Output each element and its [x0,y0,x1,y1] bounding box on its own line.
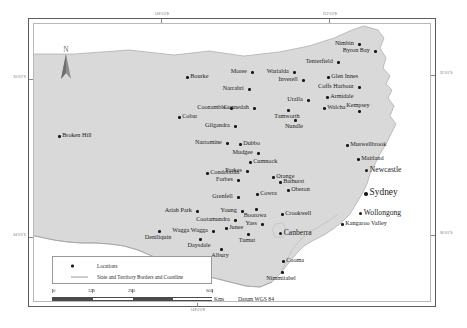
city-point-icon [358,110,361,113]
city-label: Cowra [260,190,277,196]
scale-seg-1 [53,298,93,300]
city-label: Narromine [195,139,222,145]
map-data-frame[interactable]: NimbinByron BayTenterfieldWarialdaGlen I… [33,23,431,302]
city-label: Muswellbrook [350,141,386,147]
map-scale-bar: 0 125 250 500 Kms Datum WGS 84 [52,289,232,302]
city-point-icon [282,260,285,263]
city-label: Gunnedah [223,104,248,110]
city-label: Uralla [287,96,302,102]
city-point-icon [253,107,256,110]
city-label: Daysdale [187,242,210,248]
city-point-icon [212,230,215,233]
city-label: Parkes [225,167,242,173]
city-label: Wagga Wagga [172,227,207,233]
city-point-icon [358,86,361,89]
city-label: Boorowa [244,212,267,218]
city-label: Wollongong [364,209,401,217]
city-label: Cootamundra [196,216,230,222]
city-point-icon [237,179,240,182]
scale-seg-4 [173,298,213,300]
legend-label-borders: State and Territory Borders and Coastlin… [97,274,183,280]
point-symbol-icon [71,265,74,268]
graticule-label-right-1: 32°0'0"S [440,72,467,75]
city-label: Coonamble [197,104,226,110]
graticule-tick-right-2 [431,235,435,236]
city-point-icon [241,210,244,213]
scale-label-1: 125 [88,288,95,293]
city-point-icon [374,50,377,53]
city-label: Mudgee [233,149,253,155]
scale-label-3: 500 [206,288,213,293]
north-arrow: N [58,46,74,80]
north-arrow-letter: N [58,46,74,54]
city-point-icon [234,125,237,128]
city-label: Sydney [370,188,398,197]
city-label: Junee [229,224,243,230]
city-label: Cooma [286,257,304,263]
city-label: Tumut [239,237,255,243]
city-point-icon [341,223,344,226]
legend-row-borders: State and Territory Borders and Coastlin… [53,271,211,283]
city-point-icon [246,170,249,173]
city-label: Ariah Park [165,207,192,213]
city-point-icon [365,169,368,172]
city-point-icon [272,176,275,179]
scale-seg-3 [133,298,173,300]
city-label: Kempsey [346,102,369,108]
legend-label-locations: Locations [97,263,117,269]
city-point-icon [346,144,349,147]
city-label: Forbes [216,176,233,182]
city-point-icon [302,79,305,82]
graticule-tick-right-1 [431,75,435,76]
city-point-icon [226,142,229,145]
city-label: Armidale [330,93,353,99]
city-label: Moree [231,68,247,74]
city-point-icon [186,76,189,79]
city-label: Oberon [291,186,310,192]
graticule-label-bottom-1: 148°0'0"E [168,309,228,312]
city-label: Maitland [361,155,383,161]
city-label: Nundle [285,123,303,129]
line-symbol-icon [71,277,88,278]
city-label: Coffs Harbour [318,83,354,89]
city-point-icon [357,158,360,161]
city-point-icon [206,172,209,175]
city-label: Yass [245,220,256,226]
city-point-icon [307,99,310,102]
graticule-tick-bottom-1 [197,303,198,307]
city-label: Bourke [190,73,208,79]
city-point-icon [327,76,330,79]
city-label: Kangaroo Valley [345,220,387,226]
city-point-icon [239,143,242,146]
city-label: Deniliquin [145,234,171,240]
city-label: Newcastle [370,166,402,174]
city-point-icon [257,152,260,155]
city-label: Tenterfield [306,58,333,64]
city-label: Bathurst [283,178,304,184]
map-legend: Locations State and Territory Borders an… [52,256,212,284]
city-point-icon [359,212,362,215]
city-point-icon [293,71,296,74]
graticule-label-left-2: 34°0'0"S [0,234,26,237]
map-figure: 148°0'0"E 152°0'0"E 148°0'0"E 30°0'0"S 3… [0,0,467,328]
scale-label-0: 0 [53,288,55,293]
scale-bar-ticks: 0 125 250 500 [52,289,212,296]
city-point-icon [237,196,240,199]
city-point-icon [256,193,259,196]
city-point-icon [248,88,251,91]
city-point-icon [287,189,290,192]
city-label: Grenfell [212,193,233,199]
north-arrow-glyph [58,54,74,80]
city-point-icon [279,181,282,184]
city-label: Albury [211,252,229,258]
city-point-icon [337,61,340,64]
city-label: Gilgandra [205,122,230,128]
city-point-icon [281,213,284,216]
city-label: Cobar [182,113,197,119]
city-label: Cumnock [253,158,277,164]
scale-label-2: 250 [128,288,135,293]
scale-bar-units: Kms [214,296,224,302]
city-label: Narrabri [223,85,244,91]
graticule-label-top-1: 148°0'0"E [132,13,192,16]
city-point-icon [58,135,61,138]
